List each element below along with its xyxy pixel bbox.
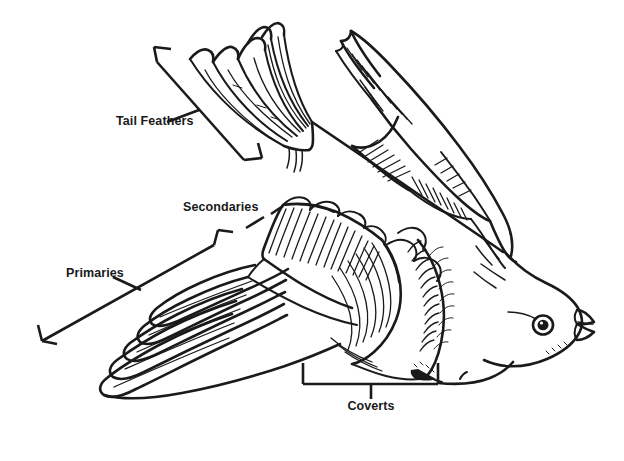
label-primaries: Primaries [66,266,124,280]
label-tail-feathers: Tail Feathers [116,114,193,128]
bird-line-art: Tail Feathers Secondaries Primaries Cove… [0,0,624,461]
label-secondaries: Secondaries [183,200,258,214]
bird-anatomy-diagram: Tail Feathers Secondaries Primaries Cove… [0,0,624,461]
label-coverts: Coverts [347,399,394,413]
